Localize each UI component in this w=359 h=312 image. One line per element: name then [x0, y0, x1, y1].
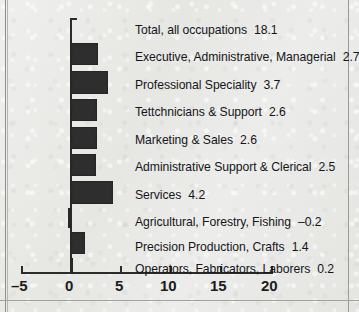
row-label-administrative-support-clerical: Administrative Support & Clerical2.5: [135, 160, 335, 174]
row-value: 18.1: [254, 23, 278, 37]
bar-operators-fabricators-laborers: [71, 258, 73, 274]
bar-agricultural-forestry-fishing: [68, 208, 71, 228]
row-value: 0.2: [317, 262, 334, 276]
bar-professional-speciality: [71, 71, 108, 94]
x-tick-label-15: 15: [210, 277, 226, 294]
row-label-text: Precision Production, Crafts: [135, 240, 285, 254]
x-tick-label-20: 20: [261, 277, 277, 294]
row-label-text: Professional Speciality: [135, 78, 256, 92]
row-label-executive-administrative-managerial: Executive, Administrative, Managerial2.7: [135, 50, 359, 64]
row-value: 2.6: [240, 133, 257, 147]
x-tick-label-5: 5: [115, 277, 123, 294]
row-value: 2.5: [319, 160, 336, 174]
bar-services: [71, 181, 113, 204]
row-label-tettchnicians-support: Tettchnicians & Support2.6: [135, 105, 286, 119]
row-label-marketing-sales: Marketing & Sales2.6: [135, 133, 257, 147]
bar-chart-plot-area: –5 0 5 10 15 20 Total, all occupations18…: [0, 0, 359, 312]
row-label-text: Marketing & Sales: [135, 133, 233, 147]
row-label-agricultural-forestry-fishing: Agricultural, Forestry, Fishing–0.2: [135, 215, 322, 229]
row-value: 2.6: [269, 105, 286, 119]
row-value: 2.7: [343, 50, 359, 64]
row-label-services: Services4.2: [135, 188, 205, 202]
x-tick-5: [120, 266, 122, 272]
x-tick--5: [21, 266, 23, 272]
row-label-text: Administrative Support & Clerical: [135, 160, 312, 174]
x-tick-label--5: –5: [11, 277, 27, 294]
row-label-professional-speciality: Professional Speciality3.7: [135, 78, 280, 92]
row-label-total-all-occupations: Total, all occupations18.1: [135, 23, 278, 37]
row-value: –0.2: [298, 215, 322, 229]
chart-page: –5 0 5 10 15 20 Total, all occupations18…: [0, 0, 359, 312]
row-value: 1.4: [292, 240, 309, 254]
row-label-text: Executive, Administrative, Managerial: [135, 50, 336, 64]
row-label-text: Tettchnicians & Support: [135, 105, 262, 119]
row-label-text: Agricultural, Forestry, Fishing: [135, 215, 291, 229]
bar-tettchnicians-support: [71, 99, 97, 121]
row-label-precision-production-crafts: Precision Production, Crafts1.4: [135, 240, 308, 254]
row-value: 3.7: [263, 78, 280, 92]
row-label-text: Services: [135, 188, 181, 202]
row-label-text: Operators, Fabricators, Laborers: [135, 262, 310, 276]
bar-marketing-sales: [71, 127, 97, 149]
bar-precision-production-crafts: [71, 232, 85, 254]
row-label-text: Total, all occupations: [135, 23, 247, 37]
row-label-operators-fabricators-laborers: Operators, Fabricators, Laborers0.2: [135, 262, 334, 276]
axis-top-cap: [70, 18, 77, 20]
row-value: 4.2: [188, 188, 205, 202]
bar-administrative-support-clerical: [71, 154, 96, 176]
x-tick-label-10: 10: [160, 277, 176, 294]
x-tick-label-0: 0: [65, 277, 73, 294]
bar-executive-administrative-managerial: [71, 43, 98, 65]
